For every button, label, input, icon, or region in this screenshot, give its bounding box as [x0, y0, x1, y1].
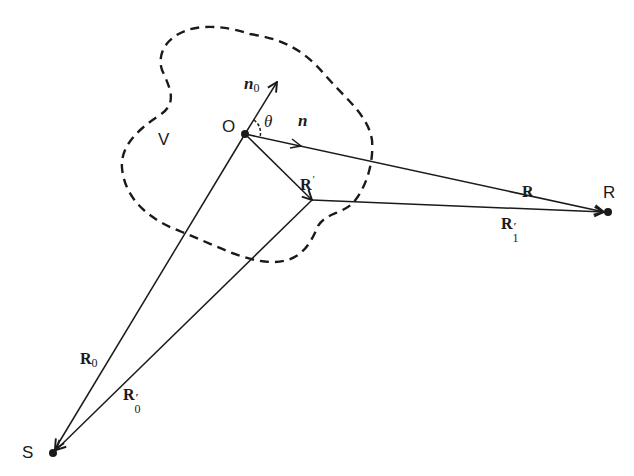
point-s-label: S [22, 444, 33, 461]
r0-sub: 0 [92, 356, 98, 370]
r0-label: R0 [80, 351, 98, 369]
region-v-label: V [158, 131, 169, 148]
r-prime-label: R′ [300, 174, 315, 193]
r0-base: R [80, 350, 92, 367]
theta-angle-arc [254, 120, 261, 137]
r0-prime-label: R′0 [123, 387, 143, 403]
r1-prime-sub: 1 [513, 232, 519, 244]
point-r-label: R [603, 184, 615, 201]
n-label: n [298, 112, 307, 129]
r-vector-label: R [522, 184, 534, 200]
r-prime-base: R [300, 176, 312, 193]
point-r [604, 208, 612, 216]
scattering-diagram [0, 0, 634, 476]
r0-vector-line [55, 134, 245, 449]
n0-sub: 0 [253, 81, 259, 95]
point-o-label: O [222, 118, 235, 135]
r-prime-mark: ′ [313, 173, 315, 185]
r0-prime-vector-line [56, 200, 312, 450]
point-o [241, 130, 249, 138]
r1-prime-base: R [501, 215, 513, 232]
n0-label: n0 [244, 75, 259, 94]
r0-prime-sub: 0 [135, 403, 141, 415]
point-s [49, 449, 57, 457]
r1-prime-label: R′1 [501, 216, 521, 232]
r0-prime-base: R [123, 386, 135, 403]
theta-label: θ [264, 113, 272, 130]
